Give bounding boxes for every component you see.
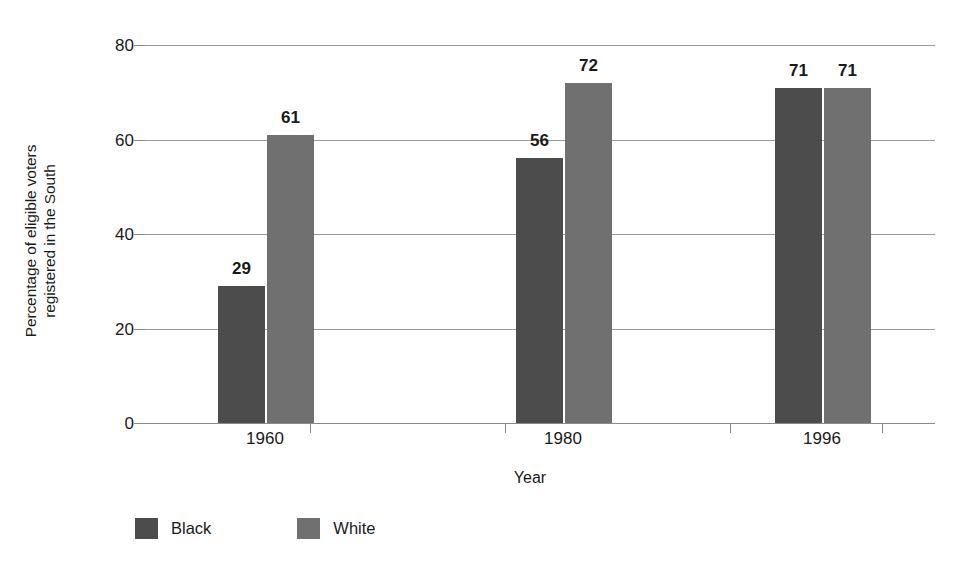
legend-label-white: White [333, 520, 375, 537]
y-tick-dash-0 [134, 423, 145, 424]
bar-1960-white: 61 [267, 135, 314, 423]
x-axis-label-1960: 1960 [205, 430, 325, 447]
y-tick-label-80: 80 [88, 37, 134, 54]
y-tick-label-0: 0 [88, 415, 134, 432]
legend-swatch-black-icon [135, 518, 158, 539]
plot-area: 29 61 56 72 71 71 [145, 45, 935, 423]
bar-1960-black: 29 [218, 286, 265, 423]
y-axis-title-line-1: Percentage of eligible voters [21, 31, 40, 451]
bar-value-label-1996-white: 71 [838, 62, 857, 79]
legend-label-black: Black [171, 520, 211, 537]
y-tick-dash-40 [134, 234, 145, 235]
legend-swatch-white-icon [297, 518, 320, 539]
x-tick-mark-3 [730, 424, 731, 433]
bar-1996-black: 71 [775, 88, 822, 424]
y-axis-title-line-2: registered in the South [40, 31, 59, 451]
x-axis-label-1980: 1980 [503, 430, 623, 447]
y-axis-title: Percentage of eligible voters registered… [21, 31, 59, 451]
bar-value-label-1980-white: 72 [579, 57, 598, 74]
y-tick-label-20: 20 [88, 321, 134, 338]
bar-value-label-1960-white: 61 [281, 109, 300, 126]
legend-item-white: White [297, 518, 375, 539]
legend: Black White [135, 518, 376, 539]
bar-1996-white: 71 [824, 88, 871, 424]
legend-item-black: Black [135, 518, 211, 539]
bar-1980-black: 56 [516, 158, 563, 423]
x-axis-label-1996: 1996 [762, 430, 882, 447]
y-tick-dash-20 [134, 329, 145, 330]
bar-value-label-1960-black: 29 [232, 260, 251, 277]
x-axis-baseline [145, 423, 935, 424]
bar-chart: Percentage of eligible voters registered… [0, 0, 958, 582]
y-tick-label-40: 40 [88, 226, 134, 243]
gridline-80 [145, 45, 935, 46]
y-axis-title-container: Percentage of eligible voters registered… [0, 0, 100, 470]
x-tick-mark-4 [882, 424, 883, 433]
x-axis-title: Year [470, 470, 590, 486]
y-tick-dash-80 [134, 45, 145, 46]
y-tick-label-60: 60 [88, 132, 134, 149]
bar-1980-white: 72 [565, 83, 612, 423]
bar-value-label-1980-black: 56 [530, 132, 549, 149]
bar-value-label-1996-black: 71 [789, 62, 808, 79]
y-tick-dash-60 [134, 140, 145, 141]
